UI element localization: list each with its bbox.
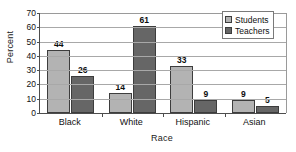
bar-students-asian[interactable] [232, 100, 255, 113]
y-axis-tick-label: 50 [16, 38, 36, 46]
y-axis-tick-mark [37, 99, 40, 100]
y-axis-tick-mark [37, 113, 40, 114]
plot-frame-right-border [286, 13, 287, 113]
students-swatch-icon [225, 16, 232, 23]
y-axis-tick-mark [37, 27, 40, 28]
bar-value-label: 61 [140, 16, 149, 25]
y-axis-tick-mark [37, 56, 40, 57]
y-axis-tick-mark [37, 13, 40, 14]
gridline [40, 42, 286, 43]
y-axis-tick-label: 60 [16, 23, 36, 31]
y-axis-tick-label: 40 [16, 52, 36, 60]
x-axis-title: Race [39, 133, 285, 143]
teachers-swatch-icon [225, 27, 232, 34]
bar-teachers-black[interactable] [71, 76, 94, 113]
legend-item-teachers[interactable]: Teachers [225, 25, 270, 36]
legend-item-students[interactable]: Students [225, 14, 270, 25]
y-axis-tick-mark [37, 84, 40, 85]
chart-legend: StudentsTeachers [222, 11, 274, 39]
bar-students-hispanic[interactable] [170, 66, 193, 113]
gridline [40, 56, 286, 57]
gridline [40, 70, 286, 71]
legend-item-label: Students [235, 15, 269, 25]
y-axis-tick-label: 10 [16, 95, 36, 103]
bar-students-black[interactable] [47, 50, 70, 113]
bar-chart: Percent 010203040506070 4426146133995 Bl… [0, 0, 296, 152]
x-axis-tick-label: Black [59, 117, 81, 127]
bar-teachers-hispanic[interactable] [194, 100, 217, 113]
gridline [40, 99, 286, 100]
bar-value-label: 33 [177, 56, 186, 65]
y-axis-tick-label: 20 [16, 80, 36, 88]
y-axis-tick-label: 70 [16, 9, 36, 17]
x-axis-tick-label: Hispanic [175, 117, 210, 127]
y-axis-tick-mark [37, 70, 40, 71]
y-axis-tick-mark [37, 42, 40, 43]
bar-students-white[interactable] [109, 93, 132, 113]
bar-value-label: 5 [265, 96, 270, 105]
y-axis-tick-label: 0 [16, 109, 36, 117]
y-axis-tick-labels: 010203040506070 [16, 13, 36, 113]
x-axis-tick-label: White [120, 117, 143, 127]
gridline [40, 84, 286, 85]
legend-item-label: Teachers [235, 26, 270, 36]
y-axis-tick-label: 30 [16, 66, 36, 74]
bar-teachers-asian[interactable] [256, 106, 279, 113]
y-axis-title: Percent [5, 19, 15, 75]
x-axis-tick-label: Asian [243, 117, 266, 127]
x-axis-tick-labels: BlackWhiteHispanicAsian [39, 117, 285, 131]
